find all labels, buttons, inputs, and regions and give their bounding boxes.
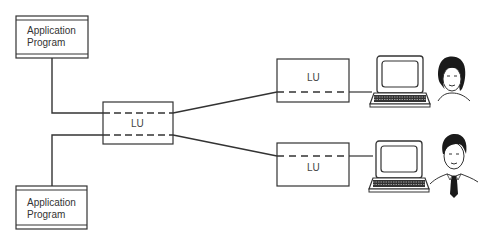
application-program-top: Application Program [16,16,88,58]
app-top-label-line1: Application [27,25,76,36]
app-bottom-label-line1: Application [27,197,76,208]
lu-center: LU [103,102,173,144]
lu-bottom-right: LU [277,143,349,186]
computer-terminal-icon [369,141,429,192]
edge-lu-to-lu-bottom [173,135,277,156]
lu-bottom-right-label: LU [307,162,320,173]
edge-lu-to-lu-top [173,92,277,113]
lu-top-right: LU [277,59,349,102]
man-user-icon [430,134,478,198]
edge-app-top-to-lu [52,58,103,113]
app-top-label-line2: Program [27,37,65,48]
computer-terminal-icon [370,56,430,107]
application-program-bottom: Application Program [16,186,87,229]
woman-user-icon [438,57,470,102]
app-bottom-label-line2: Program [27,209,65,220]
lu-top-right-label: LU [307,72,320,83]
lu-center-label: LU [131,118,144,129]
edge-app-bottom-to-lu [52,135,103,186]
lu-session-diagram: Application Program Application Program … [0,0,491,246]
